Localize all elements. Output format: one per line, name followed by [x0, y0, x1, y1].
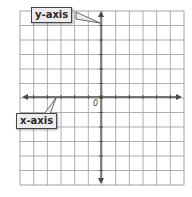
origin-point: [99, 95, 103, 99]
y-axis-label: y-axis: [31, 7, 72, 23]
label-leader-lines: [44, 12, 100, 114]
origin-label: 0: [93, 99, 98, 108]
x-axis-label: x-axis: [16, 113, 57, 129]
y-axis-label-text: y-axis: [35, 9, 68, 20]
x-axis-label-pointer: [44, 98, 56, 114]
x-axis-left-arrow-icon: [22, 94, 28, 100]
coordinate-plane: y-axis x-axis 0: [0, 0, 192, 197]
x-axis-label-text: x-axis: [20, 115, 53, 126]
y-axis-up-arrow-icon: [98, 11, 104, 17]
x-axis-right-arrow-icon: [176, 94, 182, 100]
y-axis-down-arrow-icon: [98, 178, 104, 184]
